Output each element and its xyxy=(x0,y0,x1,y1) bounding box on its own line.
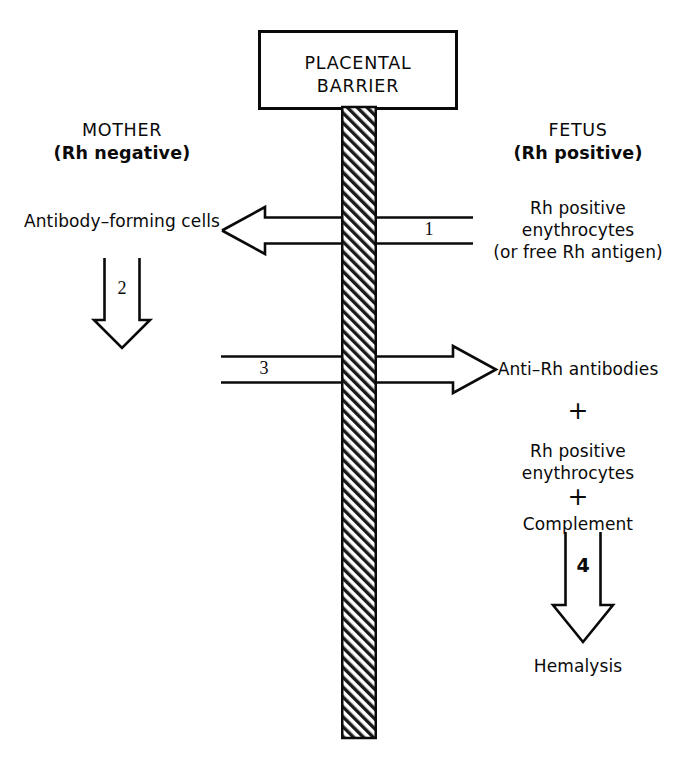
hemalysis-label: Hemalysis xyxy=(534,655,622,677)
arrow-2-shape xyxy=(94,258,150,348)
fetus-subheading: (Rh positive) xyxy=(513,142,642,165)
arrow-1-number: 1 xyxy=(425,219,434,240)
rh-pos-bottom-line1: Rh positive xyxy=(530,441,626,461)
arrow-4-number: 4 xyxy=(576,554,589,576)
anti-rh-antibodies-label: Anti–Rh antibodies xyxy=(498,358,659,380)
fetus-heading: FETUS xyxy=(548,119,607,142)
rh-pos-top-line2: enythrocytes xyxy=(522,220,634,240)
placental-barrier-label-line1: PLACENTAL xyxy=(305,53,412,73)
mother-subheading: (Rh negative) xyxy=(54,142,191,165)
rh-pos-top-line3: (or free Rh antigen) xyxy=(493,242,663,262)
arrow-3-number: 3 xyxy=(260,358,269,379)
plus-sign-2: + xyxy=(567,484,588,509)
arrow-2-number: 2 xyxy=(118,278,127,299)
diagram-canvas: PLACENTAL BARRIER MOTHER (Rh negative) F… xyxy=(0,0,690,759)
antibody-forming-cells-label: Antibody–forming cells xyxy=(24,210,220,232)
plus-sign-1: + xyxy=(567,398,588,423)
rh-positive-erythrocytes-bottom-label: Rh positive enythrocytes xyxy=(522,440,634,484)
complement-label: Complement xyxy=(523,513,633,535)
rh-pos-top-line1: Rh positive xyxy=(530,198,626,218)
placental-barrier-label-line2: BARRIER xyxy=(317,76,399,96)
arrow-4-shape xyxy=(553,532,613,642)
rh-pos-bottom-line2: enythrocytes xyxy=(522,463,634,483)
mother-heading: MOTHER xyxy=(82,119,162,142)
barrier-column-hatch xyxy=(342,107,376,738)
rh-positive-erythrocytes-top-label: Rh positive enythrocytes (or free Rh ant… xyxy=(493,197,663,263)
placental-barrier-label: PLACENTAL BARRIER xyxy=(248,52,468,98)
